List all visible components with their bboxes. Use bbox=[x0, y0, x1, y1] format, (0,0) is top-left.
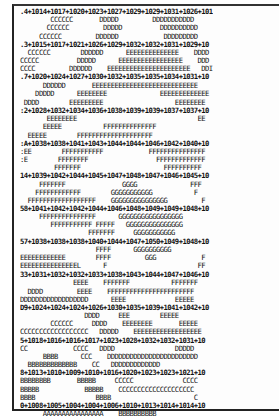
contour-printout: .4+1014+1017+1020+1023+1027+1029+1029+10… bbox=[20, 8, 279, 418]
